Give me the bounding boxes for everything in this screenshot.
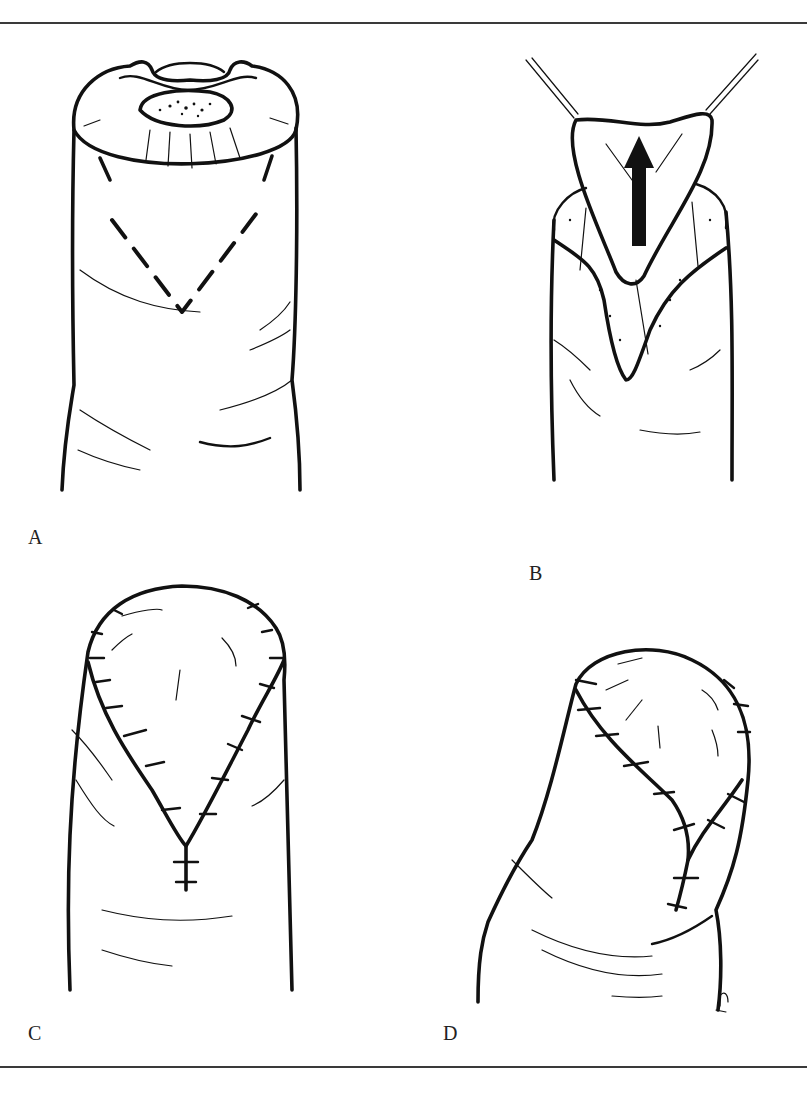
panel-label-a: A: [28, 526, 42, 549]
panel-d: [472, 640, 762, 1020]
donor-defect: [554, 240, 726, 380]
advancement-direction-arrow: [624, 136, 654, 246]
sutures: [90, 604, 284, 882]
panel-b: [520, 40, 760, 480]
y-closure-oblique-drawing: [472, 640, 762, 1020]
panel-label-c: C: [28, 1022, 41, 1045]
flap-advancement-drawing: [520, 40, 760, 480]
fingertip-stump-drawing: [60, 30, 320, 490]
panel-c: [62, 570, 312, 990]
bottom-rule: [0, 1066, 807, 1068]
suture-line: [88, 660, 284, 846]
sutures: [576, 680, 750, 908]
traction-suture-left: [526, 60, 574, 118]
bone-stipple: [159, 101, 212, 118]
panel-a: [60, 30, 320, 490]
y-closure-front-drawing: [62, 570, 312, 990]
suture-line: [576, 690, 742, 860]
v-incision-dashed-line: [112, 214, 256, 312]
traction-suture-right: [710, 60, 758, 114]
top-rule: [0, 22, 807, 24]
panel-label-b: B: [529, 562, 542, 585]
panel-label-d: D: [443, 1022, 457, 1045]
